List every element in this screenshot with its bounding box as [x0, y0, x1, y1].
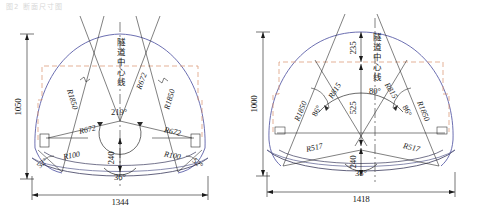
- radius-arch-right-label: R1850: [162, 88, 177, 112]
- angle-invert-label: 36°: [114, 172, 126, 182]
- dim-width-arrow-left: [267, 190, 273, 194]
- dim-width-label: 1418: [352, 194, 370, 204]
- dim-width-arrow-left: [32, 193, 38, 197]
- radius-spring-right-label: R672: [162, 125, 181, 138]
- fillet-box-right: [191, 134, 200, 147]
- angle-corner-left-label: 52°: [35, 156, 49, 170]
- dim-width-arrow-right: [449, 190, 455, 194]
- radius-lower-left-label: R517: [304, 141, 324, 154]
- angle-arrow-right-86: [393, 105, 398, 111]
- radius-arch-left-label: R1850: [65, 87, 80, 111]
- angle-arrow-left-86: [324, 105, 329, 111]
- tunnel-section-left: 隧道中心线 1050 1344 240 219° 36° 52° 52° R18…: [0, 0, 241, 212]
- dim-240-arrow-top: [359, 148, 363, 154]
- dim-height-arrow-bottom: [261, 170, 265, 176]
- radius-arch-left-label: R1850: [292, 100, 309, 124]
- dim-invert-rise-label: 240: [348, 155, 358, 169]
- radius-lower-right-label: R517: [401, 141, 421, 154]
- angle-crown-label: 219°: [111, 107, 127, 117]
- dim-height-arrow-top: [25, 34, 29, 40]
- dim-height-label: 1050: [13, 98, 23, 116]
- dim-height-arrow-bottom: [25, 173, 29, 179]
- angle-invert-label: 38°: [355, 168, 367, 178]
- dim-crown-offset-label: 235: [348, 41, 358, 55]
- radius-spring-left-label: R672: [77, 123, 96, 136]
- dim-width-label: 1344: [111, 197, 129, 207]
- centerline-label: 隧道中心线: [373, 32, 382, 82]
- dim-height-label: 1000: [249, 95, 259, 113]
- dim-height-arrow-top: [261, 32, 265, 38]
- angle-side-right-label: 86°: [401, 104, 414, 118]
- fillet-box-left: [40, 134, 49, 147]
- radius-side-right-label: R672: [134, 72, 149, 92]
- angle-crown-label: 80°: [369, 86, 381, 96]
- dim-235-arrow-top: [359, 32, 363, 38]
- dim-width-arrow-right: [202, 193, 208, 197]
- leader-jog-right: [158, 78, 168, 83]
- angle-corner-right-label: 52°: [190, 156, 204, 170]
- dim-525-arrow-top: [359, 64, 363, 70]
- dim-invert-rise-label: 240: [106, 151, 116, 165]
- dim-240-arrow-top: [118, 138, 122, 144]
- radius-fillet-right-label: R100: [162, 149, 181, 161]
- dim-525-arrow-bottom: [359, 140, 363, 146]
- leader-jog-left: [80, 77, 90, 82]
- radius-fillet-left-label: R100: [61, 150, 80, 162]
- dim-235-arrow-bottom: [359, 56, 363, 62]
- dim-mid-rise-label: 525: [348, 101, 358, 115]
- angle-side-left-label: 86°: [310, 104, 323, 118]
- drawing-sheet: 图2 断面尺寸图: [0, 0, 482, 212]
- centerline-label: 隧道中心线: [115, 37, 125, 87]
- radius-mid-left-label: R815: [326, 81, 343, 101]
- tunnel-section-right: 隧道中心线 1000 1418 235 525 240 80° 38° 86° …: [241, 0, 482, 212]
- radius-arch-right-label: R1850: [415, 99, 432, 123]
